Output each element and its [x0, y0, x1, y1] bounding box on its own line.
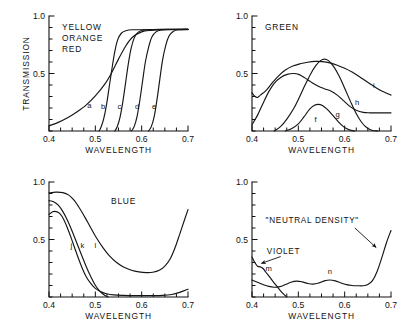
panel-0-curve-e [149, 29, 188, 131]
panel-1-ytick-label: 0.5 [236, 69, 248, 79]
panel-3-ytick-label: 0.5 [236, 235, 248, 245]
panel-0-title-line-2: RED [62, 44, 82, 54]
panel-2-xtick-label: 0.6 [136, 300, 148, 310]
panel-1-curve-label-g: g [336, 110, 340, 119]
panel-0-xtick-label: 0.4 [43, 134, 55, 144]
panel-3-annotation-1: "NEUTRAL DENSITY" [266, 216, 359, 225]
panel-1-curve-h [252, 73, 391, 124]
panel-3-xtick-label: 0.5 [292, 300, 304, 310]
panel-2-curve-label-l: l [94, 241, 96, 250]
panel-0-ytick-label: 1.0 [33, 11, 45, 21]
panel-0-xtick-label: 0.5 [89, 134, 101, 144]
panel-0-xtick-label: 0.7 [182, 134, 194, 144]
panel-2-xlabel: WAVELENGTH [85, 311, 152, 321]
panel-3-curve-label-n: n [328, 267, 332, 276]
panel-0-curve-label-d: d [135, 102, 139, 111]
panel-3-xlabel: WAVELENGTH [288, 311, 355, 321]
panel-1-xlabel: WAVELENGTH [288, 145, 355, 155]
panel-3-ytick-label: 1.0 [236, 177, 248, 187]
panel-0-xtick-label: 0.6 [136, 134, 148, 144]
transmission-filter-figure: 0.51.00.40.50.60.7WAVELENGTHTRANSMISSION… [0, 0, 407, 334]
panel-3-xtick-label: 0.4 [246, 300, 258, 310]
panel-1-curve-label-f: f [314, 115, 317, 124]
panel-2-ytick-label: 0.5 [33, 235, 45, 245]
panel-2-ytick-label: 1.0 [33, 177, 45, 187]
panel-1-curve-f [285, 104, 355, 131]
panel-2-title-line-0: BLUE [111, 196, 136, 206]
panel-0-curve-c [115, 29, 188, 131]
panel-1-xtick-label: 0.4 [246, 134, 258, 144]
panel-1-xtick-label: 0.6 [339, 134, 351, 144]
panel-2-xtick-label: 0.4 [43, 300, 55, 310]
panel-2-xtick-label: 0.5 [89, 300, 101, 310]
panel-1-xtick-label: 0.5 [292, 134, 304, 144]
panel-1-title-line-0: GREEN [265, 22, 299, 32]
panel-0-ytick-label: 0.5 [33, 69, 45, 79]
panel-3-annotation-0: VIOLET [267, 247, 300, 256]
panel-1-xtick-label: 0.7 [385, 134, 397, 144]
panel-0-curve-label-c: c [118, 102, 122, 111]
panel-1-curve-g [274, 59, 378, 131]
panel-3-xtick-label: 0.6 [339, 300, 351, 310]
figure-canvas: 0.51.00.40.50.60.7WAVELENGTHTRANSMISSION… [0, 0, 407, 334]
panel-0-curve-label-e: e [152, 102, 156, 111]
panel-3-xtick-label: 0.7 [385, 300, 397, 310]
panel-3-annotation-1-leader [355, 228, 376, 248]
panel-2-xtick-label: 0.7 [182, 300, 194, 310]
panel-3-axis-lines [252, 182, 391, 297]
panel-0-curve-label-b: b [101, 102, 105, 111]
panel-1-curve-i [252, 61, 391, 97]
panel-1-ytick-label: 1.0 [236, 11, 248, 21]
panel-0-curve-label-a: a [87, 101, 92, 110]
panel-2-curve-k [49, 201, 108, 297]
panel-3-curve-label-m: m [266, 264, 272, 273]
panel-2-curve-label-k: k [80, 241, 84, 250]
panel-1-axis-lines [252, 16, 391, 131]
panel-0-title-line-1: ORANGE [62, 33, 103, 43]
panel-1-curve-label-i: i [373, 81, 375, 90]
panel-2-curve-label-j: j [69, 241, 72, 250]
panel-3-annotation-0-leader [261, 257, 280, 264]
panel-0-xlabel: WAVELENGTH [85, 145, 152, 155]
panel-0-ylabel: TRANSMISSION [21, 36, 31, 111]
panel-1-curve-label-h: h [355, 98, 359, 107]
panel-0-title-line-0: YELLOW [62, 22, 102, 32]
panel-0-curve-b [99, 29, 188, 131]
panel-2-curve-j [49, 211, 188, 295]
